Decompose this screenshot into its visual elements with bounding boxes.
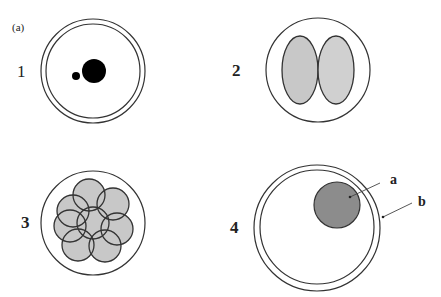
panel-4-inner-membrane <box>260 170 374 284</box>
panel-1-large-dot <box>82 59 106 83</box>
panel-2-cell-left <box>282 36 318 104</box>
panel-2-two-cell <box>266 18 370 122</box>
annotation-b-pointer-tip <box>382 216 385 219</box>
annotation-b-pointer <box>383 203 412 217</box>
figure-tag: (a) <box>12 21 25 34</box>
annotation-a-label: a <box>390 172 397 187</box>
panel-label-2: 2 <box>232 61 241 80</box>
annotation-b-label: b <box>418 194 426 209</box>
figure-canvas: (a) 1 2 3 4 a b <box>0 0 441 297</box>
panel-3-morula <box>41 171 145 275</box>
panel-4-nucleus <box>314 182 360 228</box>
panel-1-zygote <box>41 19 145 123</box>
annotation-a-pointer-tip <box>349 196 352 199</box>
panel-label-4: 4 <box>230 218 239 237</box>
panel-4-cell: a b <box>254 165 426 291</box>
panel-label-1: 1 <box>17 62 26 81</box>
panel-4-outer-membrane <box>254 165 380 291</box>
panel-3-cells <box>54 179 133 262</box>
panel-2-cell-right <box>318 36 354 104</box>
panel-1-small-dot <box>72 72 80 80</box>
panel-label-3: 3 <box>21 213 30 232</box>
